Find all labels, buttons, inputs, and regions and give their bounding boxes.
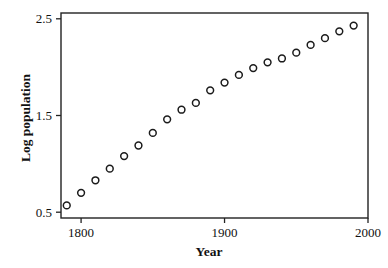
data-point [307, 42, 314, 49]
data-point [293, 49, 300, 56]
data-point [336, 28, 343, 35]
data-point [235, 71, 242, 78]
y-tick-label: 2.5 [36, 11, 52, 26]
data-point [106, 165, 113, 172]
data-point [121, 153, 128, 160]
x-tick-label: 1900 [212, 225, 238, 240]
data-point [92, 177, 99, 184]
data-point [250, 65, 257, 72]
data-point [164, 116, 171, 123]
data-point [207, 87, 214, 94]
plot-frame [61, 13, 368, 218]
chart-figure: 180019002000 0.51.52.5 Year Log populati… [0, 0, 388, 268]
x-axis-ticks: 180019002000 [68, 218, 381, 240]
data-point [350, 22, 357, 29]
data-point [178, 106, 185, 113]
data-point-markers [63, 22, 357, 209]
x-tick-label: 2000 [355, 225, 381, 240]
x-tick-label: 1800 [68, 225, 94, 240]
data-point [78, 189, 85, 196]
data-point [149, 130, 156, 137]
y-axis-ticks: 0.51.52.5 [36, 11, 61, 219]
data-point [221, 79, 228, 86]
data-point [279, 55, 286, 62]
plot-border [61, 13, 368, 218]
y-axis-title: Log population [18, 73, 33, 162]
x-axis-title: Year [196, 244, 223, 259]
scatter-plot: 180019002000 0.51.52.5 Year Log populati… [0, 0, 388, 268]
data-point [192, 100, 199, 107]
y-tick-label: 1.5 [36, 108, 52, 123]
data-point [135, 142, 142, 149]
data-point [322, 35, 329, 42]
y-tick-label: 0.5 [36, 205, 52, 220]
data-point [264, 59, 271, 66]
data-point [63, 202, 70, 209]
